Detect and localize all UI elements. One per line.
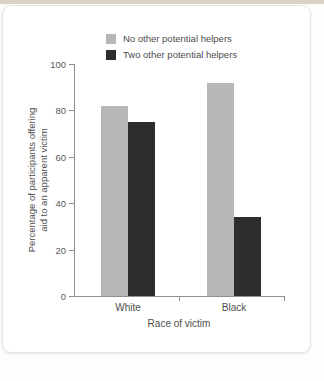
x-axis-title: Race of victim — [74, 318, 284, 329]
bar-black-no-helpers — [207, 83, 234, 296]
x-tick-mark — [179, 296, 180, 301]
x-tick-mark — [284, 296, 285, 301]
bar-white-no-helpers — [101, 106, 128, 296]
y-tick-mark — [69, 110, 74, 111]
y-tick-mark — [69, 250, 74, 251]
legend-label: Two other potential helpers — [123, 49, 237, 60]
figure-panel: No other potential helpersTwo other pote… — [2, 5, 311, 353]
legend-item: No other potential helpers — [106, 33, 237, 44]
y-axis-title-line2: aid to an apparent victim — [38, 55, 50, 305]
page-top-edge — [0, 0, 324, 4]
x-category-label: Black — [194, 302, 274, 313]
y-axis-line — [74, 64, 75, 297]
y-axis-title-line1: Percentage of participants offering — [26, 55, 38, 305]
bar-white-two-helpers — [128, 122, 155, 296]
plot-area: 020406080100WhiteBlack — [74, 64, 284, 296]
y-tick-mark — [69, 203, 74, 204]
legend-swatch-dark — [106, 50, 116, 60]
legend-swatch-gray — [106, 34, 116, 44]
x-category-label: White — [88, 302, 168, 313]
page: { "page": { "background": "#fdfdfc", "to… — [0, 0, 324, 381]
legend-label: No other potential helpers — [123, 33, 232, 44]
y-tick-mark — [69, 157, 74, 158]
y-tick-mark — [69, 64, 74, 65]
bar-black-two-helpers — [234, 217, 261, 296]
y-axis-title: Percentage of participants offering aid … — [26, 55, 51, 305]
legend-item: Two other potential helpers — [106, 49, 237, 60]
chart-legend: No other potential helpersTwo other pote… — [106, 33, 237, 60]
y-tick-mark — [69, 296, 74, 297]
